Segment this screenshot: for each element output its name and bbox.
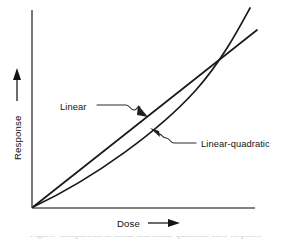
x-axis-title: Dose [117,218,140,229]
y-axis-arrow [13,68,21,101]
linear-arrowhead-icon [137,105,148,117]
right-arrow-icon [168,219,180,227]
linear-quadratic-label: Linear-quadratic [201,139,270,149]
dose-response-figure: Response Dose Linear Linear-quadratic Fi… [0,0,290,241]
dose-response-chart: Response Dose Linear Linear-quadratic [0,0,290,241]
up-arrow-icon [13,68,21,80]
linear-curve [33,30,257,207]
linear-label: Linear [60,102,86,112]
linear-quadratic-annotation [150,128,196,143]
linear-annotation [97,105,148,117]
x-axis-arrow [148,219,180,227]
linear-leader-line [97,105,140,110]
caption-text: Figure. Comparison of linear and linear-… [30,236,262,239]
caption-strip: Figure. Comparison of linear and linear-… [0,236,290,241]
y-axis-title: Response [12,116,23,160]
linear-quadratic-leader-line [158,134,196,143]
